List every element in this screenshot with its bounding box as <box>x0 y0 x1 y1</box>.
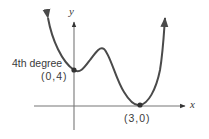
y-axis-label: y <box>69 6 74 17</box>
polynomial-graph <box>0 0 209 139</box>
point-0-4 <box>71 67 76 72</box>
point-label-3-0: (3,0) <box>124 113 151 124</box>
curve-degree-label: 4th degree <box>12 58 62 69</box>
quartic-curve <box>48 18 165 105</box>
point-3-0 <box>137 102 142 107</box>
x-axis-label: x <box>190 99 195 110</box>
point-label-0-4: (0,4) <box>41 71 68 82</box>
